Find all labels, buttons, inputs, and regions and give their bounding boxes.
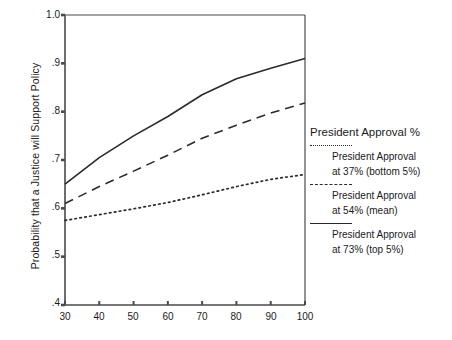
legend-label-line1: President Approval: [332, 150, 452, 165]
legend-label-line2: at 37% (bottom 5%): [332, 165, 452, 180]
legend-item-bottom5: President Approval at 37% (bottom 5%): [310, 141, 452, 179]
legend-item-top5: President Approval at 73% (top 5%): [310, 219, 452, 257]
legend-label-line1: President Approval: [332, 228, 452, 243]
series-layer: [65, 59, 305, 221]
legend-sample-dotted: [310, 141, 352, 150]
series-line: [65, 59, 305, 185]
legend-sample-solid: [310, 219, 352, 228]
chart-figure: Probability that a Justice will Support …: [0, 0, 452, 340]
legend-item-mean: President Approval at 54% (mean): [310, 180, 452, 218]
legend-sample-dashed: [310, 180, 352, 189]
legend-title: President Approval %: [310, 126, 452, 138]
legend-label-line2: at 54% (mean): [332, 204, 452, 219]
series-line: [65, 103, 305, 204]
legend-label-line1: President Approval: [332, 189, 452, 204]
chart-legend: President Approval % President Approval …: [310, 126, 452, 258]
legend-label-line2: at 73% (top 5%): [332, 243, 452, 258]
series-line: [65, 175, 305, 221]
